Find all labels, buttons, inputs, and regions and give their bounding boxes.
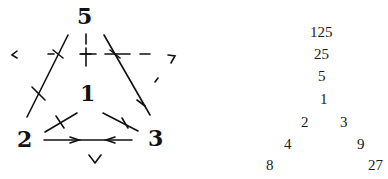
lattice-lines: [0, 0, 200, 179]
value-9: 9: [357, 137, 365, 152]
value-1: 1: [320, 92, 328, 107]
lattice-diagram: 5 1 2 3: [0, 0, 200, 179]
node-1: 1: [80, 82, 95, 104]
value-2: 2: [301, 115, 309, 130]
node-2: 2: [17, 128, 32, 150]
number-triangle: 125 25 5 1 2 3 4 9 8 27: [250, 0, 388, 179]
value-5: 5: [318, 69, 326, 84]
value-125: 125: [310, 25, 333, 40]
value-8: 8: [266, 158, 274, 173]
value-25: 25: [314, 47, 329, 62]
node-5: 5: [77, 5, 92, 27]
value-3: 3: [340, 115, 348, 130]
value-27: 27: [368, 158, 383, 173]
node-3: 3: [148, 127, 163, 149]
value-4: 4: [284, 137, 292, 152]
